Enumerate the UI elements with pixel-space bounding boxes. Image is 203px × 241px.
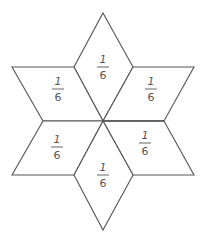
svg-text:1: 1 — [100, 53, 107, 66]
svg-text:1: 1 — [142, 129, 149, 142]
svg-text:6: 6 — [100, 69, 107, 82]
svg-text:6: 6 — [54, 149, 61, 162]
svg-text:6: 6 — [55, 91, 62, 104]
star-fraction-diagram: ​ 1 6 1 6 1 6 1 6 — [0, 0, 203, 241]
svg-text:6: 6 — [142, 145, 149, 158]
svg-text:1: 1 — [55, 75, 62, 88]
svg-text:1: 1 — [148, 75, 155, 88]
cropped-caption-remnant: ​ — [0, 0, 203, 4]
star-diagram-svg: 1 6 1 6 1 6 1 6 1 6 1 6 — [0, 0, 203, 241]
svg-text:1: 1 — [100, 161, 107, 174]
svg-text:6: 6 — [148, 91, 155, 104]
svg-text:1: 1 — [54, 133, 61, 146]
svg-text:6: 6 — [100, 177, 107, 190]
